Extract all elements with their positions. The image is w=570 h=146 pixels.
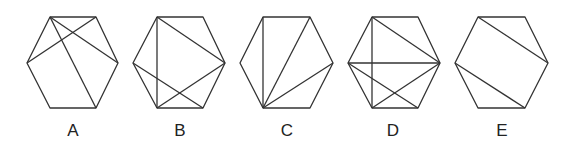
option-label: D <box>387 121 399 140</box>
option-label: B <box>174 121 185 140</box>
hexagon-outline <box>133 17 225 108</box>
hexagon-option-e: E <box>455 17 548 140</box>
option-label: E <box>496 121 507 140</box>
diagonal-tl-r <box>372 17 440 63</box>
diagonal-bl-tr <box>263 17 310 108</box>
hexagon-diagram: ABCDE <box>0 0 570 146</box>
hexagon-option-c: C <box>240 17 333 140</box>
option-label: A <box>67 121 79 140</box>
option-label: C <box>281 121 293 140</box>
diagonal-tl-r <box>157 17 225 63</box>
diagonal-tl-r <box>50 17 118 63</box>
hexagon-outline <box>455 17 548 108</box>
hexagon-option-d: D <box>348 17 440 140</box>
diagonal-bl-r <box>263 63 333 108</box>
diagonal-tl-br <box>50 17 96 108</box>
diagonal-tl-r <box>478 17 548 63</box>
hexagon-option-b: B <box>133 17 225 140</box>
diagonal-l-tr <box>27 17 96 63</box>
hexagon-option-a: A <box>27 17 118 140</box>
diagonal-l-br <box>455 63 525 108</box>
